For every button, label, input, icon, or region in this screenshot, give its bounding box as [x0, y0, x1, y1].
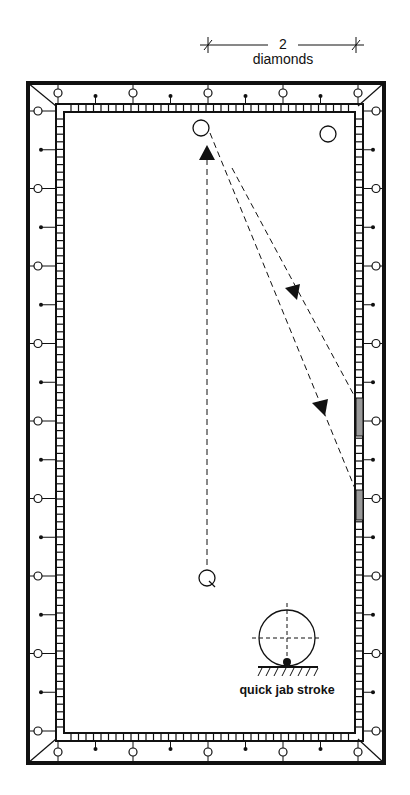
- corner-miters: [28, 83, 384, 763]
- arrow-up-icon: [199, 145, 215, 160]
- stroke-caption: quick jab stroke: [239, 683, 334, 697]
- object-ball-2: [320, 126, 336, 142]
- second-path: [232, 168, 356, 399]
- object-ball-1: [193, 120, 209, 136]
- dimension-unit: diamonds: [253, 51, 314, 67]
- shot-paths: [207, 133, 356, 565]
- contact-zones: [356, 398, 363, 520]
- cue-tip-point: [283, 658, 291, 666]
- table-frame: [28, 83, 384, 763]
- stroke-diagram: [252, 603, 322, 676]
- cue-ball: [199, 570, 215, 587]
- arrow-down-icon: [312, 399, 328, 416]
- first-object-path: [210, 133, 356, 491]
- billiards-diagram: 2 diamonds: [0, 0, 410, 795]
- dimension-value: 2: [279, 36, 287, 52]
- arrow-down-icon: [285, 284, 300, 300]
- cushion: [56, 104, 363, 741]
